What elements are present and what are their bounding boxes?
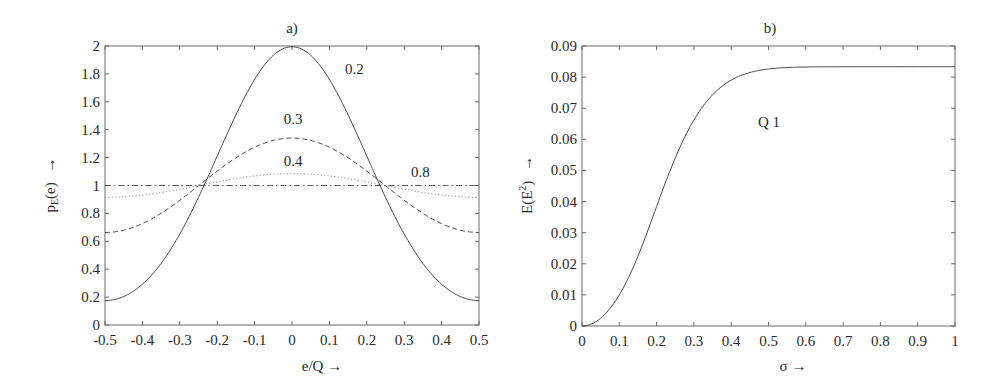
y-tick-label: 1.2 [81,150,100,166]
x-tick-label: 0.5 [759,333,778,349]
y-tick-label: 0.05 [551,162,577,178]
curve-label-q1: Q 1 [758,114,780,130]
curve-label-0.2: 0.2 [345,61,364,77]
x-tick-label: 0 [578,333,586,349]
x-tick-label: -0.4 [131,332,155,348]
y-tick-label: 0.6 [81,233,100,249]
x-tick-label: 0.3 [685,333,704,349]
x-tick-label: 1 [951,333,959,349]
y-tick-label: 0.07 [551,100,578,116]
panel-b-ticks: 00.10.20.30.40.50.60.70.80.9100.010.020.… [551,38,959,349]
panel-b-x-axis-label: σ → [780,358,807,374]
x-tick-label: 0.2 [647,333,666,349]
y-tick-label: 1.8 [81,66,100,82]
x-tick-label: 0.5 [470,332,489,348]
panel-a-title: a) [286,20,298,37]
y-tick-label: 0.02 [551,256,577,272]
panel-b: b) 00.10.20.30.40.50.60.70.80.9100.010.0… [517,20,959,374]
x-tick-label: 0.3 [395,332,414,348]
y-tick-label: 1 [93,178,101,194]
panel-a: a) -0.5-0.4-0.3-0.2-0.100.10.20.30.40.50… [42,20,488,374]
curve-label-0.3: 0.3 [284,111,303,127]
y-tick-label: 0.08 [551,69,577,85]
x-tick-label: -0.2 [205,332,229,348]
x-tick-label: 0.7 [834,333,853,349]
panel-a-ticks: -0.5-0.4-0.3-0.2-0.100.10.20.30.40.500.2… [81,38,488,348]
y-tick-label: 0 [570,318,578,334]
y-tick-label: 0.03 [551,225,577,241]
x-tick-label: 0.1 [610,333,629,349]
curve-label-0.4: 0.4 [284,153,303,169]
x-tick-label: 0.4 [722,333,741,349]
y-tick-label: 0.09 [551,38,577,54]
y-tick-label: 1.4 [81,122,100,138]
y-tick-label: 2 [93,38,101,54]
x-tick-label: 0.2 [357,332,376,348]
y-tick-label: 1.6 [81,94,100,110]
x-tick-label: 0.8 [871,333,890,349]
y-tick-label: 0.04 [551,194,578,210]
y-tick-label: 0.2 [81,289,100,305]
x-tick-label: 0.4 [432,332,451,348]
panel-b-y-axis-label: E(E2) → [517,156,536,214]
panel-b-plot-frame [582,46,955,326]
panel-b-curves [582,67,955,326]
x-tick-label: -0.3 [168,332,192,348]
x-tick-label: 0.1 [320,332,339,348]
y-tick-label: 0.4 [81,261,100,277]
panel-b-title: b) [764,20,777,37]
curve-label-0.8: 0.8 [411,164,430,180]
x-tick-label: 0.6 [796,333,815,349]
y-tick-label: 0 [93,317,101,333]
y-tick-label: 0.06 [551,131,578,147]
x-tick-label: 0 [288,332,296,348]
panel-a-x-axis-label: e/Q → [302,358,342,374]
figure: a) -0.5-0.4-0.3-0.2-0.100.10.20.30.40.50… [0,0,1004,389]
curve-q1 [582,67,955,326]
x-tick-label: 0.9 [908,333,927,349]
y-tick-label: 0.01 [551,287,577,303]
y-tick-label: 0.8 [81,205,100,221]
panel-a-y-axis-label: pE(e) → [42,157,60,212]
x-tick-label: -0.1 [243,332,267,348]
x-tick-label: -0.5 [93,332,117,348]
